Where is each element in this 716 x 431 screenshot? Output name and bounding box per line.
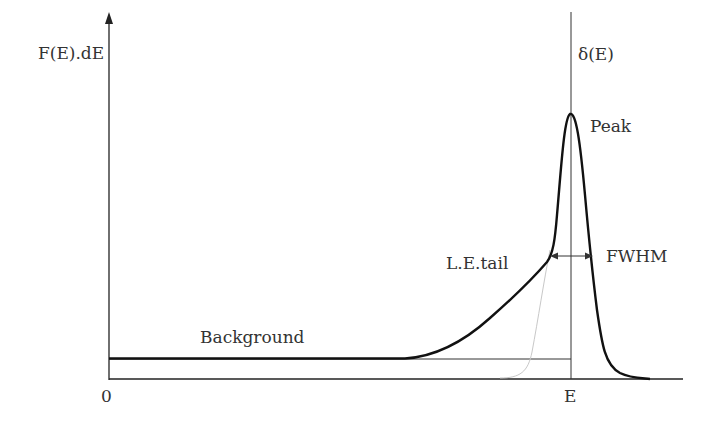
diagram-canvas [0,0,716,431]
energy-label: E [564,388,576,405]
fwhm-label: FWHM [606,248,668,265]
y-axis-arrow-icon [105,12,113,24]
peak-label: Peak [590,118,631,135]
origin-label: 0 [101,388,112,405]
delta-label: δ(E) [578,46,614,63]
spectrum-curve [109,114,650,379]
energy-spectrum-diagram: F(E).dE δ(E) Peak FWHM L.E.tail Backgrou… [0,0,716,431]
tail-label: L.E.tail [446,255,508,272]
background-label: Background [200,329,304,346]
y-axis-label: F(E).dE [38,45,104,62]
